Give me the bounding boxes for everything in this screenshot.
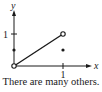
filled-point-y-axis bbox=[12, 48, 15, 51]
y-axis-label: y bbox=[10, 0, 16, 11]
open-endpoint-one-one bbox=[61, 32, 65, 36]
x-axis-label: x bbox=[93, 60, 99, 71]
open-endpoint-origin bbox=[12, 64, 16, 68]
line-segment bbox=[14, 34, 63, 66]
x-axis-arrow bbox=[86, 64, 92, 68]
filled-point-x-one bbox=[61, 48, 64, 51]
y-tick-label: 1 bbox=[3, 29, 8, 40]
caption: There are many others. bbox=[0, 76, 102, 87]
